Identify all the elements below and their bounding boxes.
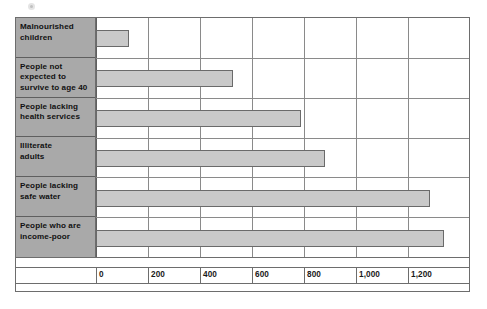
scan-artifact-speck [28,3,35,10]
row-separator-1 [96,58,469,59]
tick-separator-800 [304,267,305,284]
row-separator-4 [96,177,469,178]
category-label-1: People not expected to survive to age 40 [16,58,95,98]
tick-label-800: 800 [307,270,321,279]
tick-label-600: 600 [255,270,269,279]
tick-separator-1000 [356,267,357,284]
tick-separator-0 [96,267,97,284]
tick-label-200: 200 [151,270,165,279]
category-label-4: People lacking safe water [16,177,95,217]
tick-label-0: 0 [99,270,104,279]
category-label-2: People lacking health services [16,98,95,138]
tick-separator-400 [200,267,201,284]
row-separator-5 [96,217,469,218]
tick-separator-600 [252,267,253,284]
category-label-0: Malnourished children [16,18,95,58]
category-label-4-line2: safe water [20,192,92,203]
row-separator-3 [96,138,469,139]
tick-label-1000: 1,000 [359,270,380,279]
plot-area: Malnourished children People not expecte… [16,18,469,291]
bar-2 [96,110,301,127]
bar-1 [96,70,233,87]
category-label-2-line2: health services [20,112,92,123]
chart-frame: Malnourished children People not expecte… [15,17,470,292]
tick-label-1200: 1,200 [411,270,432,279]
category-label-5: People who are income-poor [16,217,95,257]
category-label-1-line1: People not [20,62,92,73]
bar-0 [96,30,129,47]
tick-separator-200 [148,267,149,284]
category-label-2-line1: People lacking [20,102,92,113]
category-label-4-line1: People lacking [20,181,92,192]
category-label-3-line1: Illiterate [20,141,92,152]
tick-label-400: 400 [203,270,217,279]
category-label-3: Illiterate adults [16,137,95,177]
category-label-0-line1: Malnourished [20,22,92,33]
tick-label-band [16,267,469,284]
category-label-5-line2: income-poor [20,232,92,243]
x-axis: 02004006008001,0001,200 [16,257,469,293]
category-label-1-line2: expected to [20,72,92,83]
category-label-5-line1: People who are [20,221,92,232]
category-label-1-line3: survive to age 40 [20,83,92,94]
category-label-0-line2: children [20,33,92,44]
row-separator-2 [96,98,469,99]
axis-baseline [16,257,469,258]
bar-3 [96,150,325,167]
bar-5 [96,230,444,247]
category-label-panel: Malnourished children People not expecte… [16,18,96,257]
category-label-3-line2: adults [20,152,92,163]
bar-4 [96,190,430,207]
tick-separator-1200 [408,267,409,284]
